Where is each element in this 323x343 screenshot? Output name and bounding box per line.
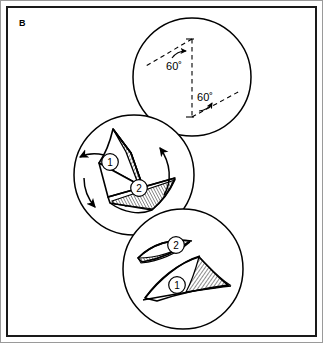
- bottom-callout-2-label: 2: [173, 240, 179, 251]
- figure-panel-b: B: [0, 0, 323, 343]
- middle-callout-1-label: 1: [107, 157, 113, 168]
- angle-label-upper: 60˚: [166, 60, 182, 72]
- middle-callout-2-label: 2: [136, 183, 142, 194]
- bottom-callout-1-label: 1: [174, 280, 180, 291]
- figure-illustration: 60˚ 60˚ 1: [0, 0, 323, 343]
- bottom-circle-group: 2 1: [123, 209, 243, 329]
- angle-label-lower: 60˚: [197, 91, 213, 103]
